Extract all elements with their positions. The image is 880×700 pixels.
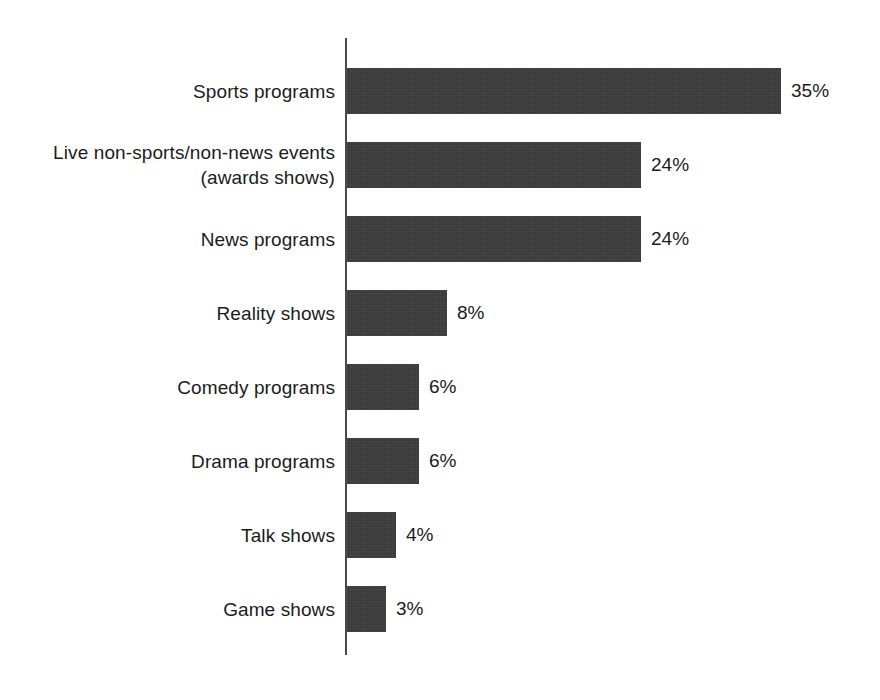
bar-row: Comedy programs 6% <box>0 364 880 410</box>
bar-value-label: 24% <box>651 154 689 176</box>
bar-value-label: 6% <box>429 376 456 398</box>
bar-chart: Sports programs 35% Live non-sports/non-… <box>0 0 880 700</box>
bar-category-label: Game shows <box>5 597 335 622</box>
bar-row: Live non-sports/non-news events (awards … <box>0 142 880 188</box>
bar-value-label: 24% <box>651 228 689 250</box>
bar-value-label: 8% <box>457 302 484 324</box>
bar-category-label: Sports programs <box>5 79 335 104</box>
bar-value-label: 35% <box>791 80 829 102</box>
bar-rect <box>347 512 396 558</box>
bar-rect <box>347 142 641 188</box>
bar-category-label: Drama programs <box>5 449 335 474</box>
bar-category-label: Reality shows <box>5 301 335 326</box>
bars-area: Sports programs 35% Live non-sports/non-… <box>0 0 880 700</box>
bar-row: Drama programs 6% <box>0 438 880 484</box>
bar-category-label: Live non-sports/non-news events (awards … <box>5 140 335 190</box>
bar-value-label: 3% <box>396 598 423 620</box>
bar-row: Sports programs 35% <box>0 68 880 114</box>
bar-category-label: Comedy programs <box>5 375 335 400</box>
bar-rect <box>347 586 386 632</box>
bar-rect <box>347 438 419 484</box>
bar-row: Game shows 3% <box>0 586 880 632</box>
bar-value-label: 4% <box>406 524 433 546</box>
bar-row: Talk shows 4% <box>0 512 880 558</box>
bar-rect <box>347 216 641 262</box>
bar-rect <box>347 68 781 114</box>
bar-rect <box>347 364 419 410</box>
bar-value-label: 6% <box>429 450 456 472</box>
bar-row: News programs 24% <box>0 216 880 262</box>
bar-row: Reality shows 8% <box>0 290 880 336</box>
bar-category-label: Talk shows <box>5 523 335 548</box>
bar-rect <box>347 290 447 336</box>
bar-category-label: News programs <box>5 227 335 252</box>
